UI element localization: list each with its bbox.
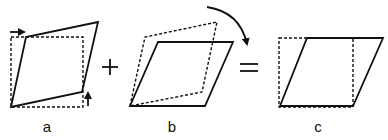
plus-operator xyxy=(102,59,118,75)
panel-c-label: c xyxy=(314,118,322,135)
panel-c-original-square xyxy=(279,38,353,107)
panel-b-pre-rotation-shape xyxy=(130,22,217,106)
panel-c-simple-shear-shape xyxy=(280,38,383,106)
panel-b-label: b xyxy=(168,118,176,135)
shear-decomposition-diagram: a b c xyxy=(0,0,388,140)
equals-operator xyxy=(240,64,258,71)
panel-a: a xyxy=(10,22,98,135)
panel-a-original-square xyxy=(11,37,83,107)
panel-a-label: a xyxy=(43,118,52,135)
panel-c: c xyxy=(279,38,383,135)
panel-a-sheared-shape xyxy=(11,22,98,107)
panel-b: b xyxy=(130,7,247,135)
